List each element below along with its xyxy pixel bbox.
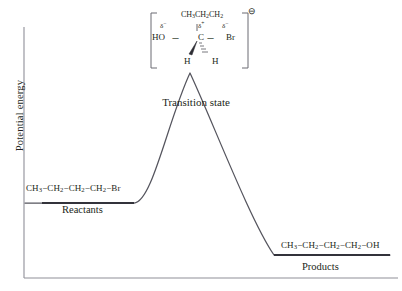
ts-delta-center-sign: + (201, 20, 204, 26)
ts-propyl-chain: CH3CH2CH2 (150, 10, 254, 19)
reactants-label: Reactants (62, 204, 103, 215)
ts-atom-carbon: C (198, 32, 204, 42)
reactant-group-1: CH (26, 183, 39, 193)
product-group-1: CH (281, 240, 294, 250)
ts-atom-hydrogen-left: H (184, 56, 191, 66)
energy-diagram-figure: Potential energy CH3−CH2−CH2−CH2−Br Reac… (0, 0, 402, 291)
products-label: Products (302, 261, 339, 272)
ts-delta-plus-center: δ+ (198, 20, 204, 30)
y-axis-label: Potential energy (14, 61, 25, 171)
ts-partial-bond-right: --- (207, 33, 213, 43)
ts-chain-c-sub: 2 (220, 13, 223, 19)
ts-chain-a: CH (181, 10, 192, 19)
product-group-2: CH (302, 240, 315, 250)
ts-delta-minus-right: δ− (222, 20, 228, 30)
ts-delta-right-sign: − (225, 20, 228, 26)
ts-delta-minus-left: δ− (160, 20, 166, 30)
reactant-group-2: CH (47, 183, 60, 193)
product-group-4: CH (345, 240, 358, 250)
ts-chain-c: CH (209, 10, 220, 19)
ts-delta-left-sign: − (163, 20, 166, 26)
reactant-group-4: CH (90, 183, 103, 193)
product-group-5: OH (366, 240, 379, 250)
reactant-group-5: Br (111, 183, 120, 193)
products-formula: CH3−CH2−CH2−CH2−OH (281, 240, 380, 250)
ts-negative-charge-icon: ⊖ (248, 6, 256, 16)
ts-partial-bond-left: --- (172, 33, 178, 43)
ts-atom-hydroxide: HO (152, 32, 165, 42)
reactants-formula: CH3−CH2−CH2−CH2−Br (26, 183, 121, 193)
transition-state-label: Transition state (156, 96, 236, 109)
transition-state-structure: CH3CH2CH2 δ− δ+ δ− HO --- C --- Br H H ⊖ (150, 6, 266, 72)
ts-atom-hydrogen-right: H (212, 56, 219, 66)
ts-atom-bromine: Br (226, 32, 235, 42)
ts-chain-b: CH (195, 10, 206, 19)
reactant-group-3: CH (69, 183, 82, 193)
product-group-3: CH (324, 240, 337, 250)
